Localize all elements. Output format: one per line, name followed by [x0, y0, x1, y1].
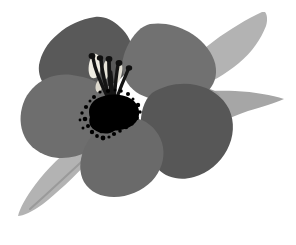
center-speckle	[101, 136, 106, 141]
center-speckle	[105, 124, 108, 127]
center-speckle	[79, 119, 82, 122]
stamen-anther-5	[126, 65, 132, 71]
center-speckle	[89, 100, 92, 103]
center-speckle	[114, 89, 117, 92]
center-speckle	[132, 98, 135, 101]
center-speckle	[107, 135, 110, 138]
center-speckle	[106, 89, 110, 93]
center-speckle	[118, 129, 122, 133]
center-speckle	[84, 105, 88, 109]
center-speckle	[100, 131, 103, 134]
center-speckle	[124, 125, 129, 130]
stamen-anther-1	[89, 53, 96, 59]
center-speckle	[95, 120, 98, 123]
center-speckle	[92, 115, 94, 117]
center-speckle	[110, 106, 113, 109]
center-speckle	[112, 121, 115, 124]
stamen-anther-2	[97, 55, 103, 61]
center-speckle	[90, 130, 94, 134]
center-speckle	[92, 95, 96, 99]
center-speckle	[83, 117, 88, 122]
stamen-anther-4	[116, 60, 123, 66]
center-speckle	[117, 102, 120, 105]
center-speckle	[130, 103, 133, 106]
center-speckle	[135, 116, 139, 120]
center-speckle	[138, 110, 141, 113]
center-speckle	[123, 97, 125, 99]
center-speckle	[112, 132, 116, 136]
center-speckle	[121, 116, 124, 119]
center-speckle	[126, 92, 130, 96]
center-speckle	[119, 89, 123, 93]
center-speckle	[82, 127, 85, 130]
center-speckle	[130, 122, 133, 125]
center-speckle	[136, 103, 140, 107]
center-speckle	[103, 115, 106, 118]
flower-artwork	[0, 0, 296, 245]
center-speckle	[115, 127, 117, 129]
center-speckle	[86, 124, 90, 128]
stamen-anther-3	[106, 56, 113, 62]
flower-illustration	[0, 0, 296, 245]
center-speckle	[98, 90, 101, 93]
center-speckle	[98, 126, 101, 129]
center-speckle	[95, 134, 99, 138]
center-speckle	[127, 109, 130, 112]
center-speckle	[80, 111, 83, 114]
